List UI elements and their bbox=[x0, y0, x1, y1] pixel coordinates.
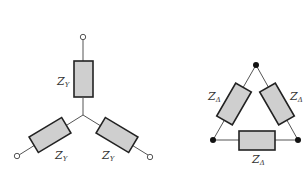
delta-left-label: ZΔ bbox=[207, 90, 221, 104]
star-bl-terminal bbox=[14, 153, 19, 158]
star-br-terminal bbox=[147, 154, 152, 159]
star-br-label: ZY bbox=[101, 149, 116, 163]
delta-bl-node bbox=[210, 137, 216, 143]
star-top-impedance bbox=[74, 61, 93, 97]
delta-top-node bbox=[253, 62, 259, 68]
star-top-label: ZY bbox=[56, 75, 71, 89]
delta-left-impedance bbox=[217, 83, 252, 125]
star-br-impedance bbox=[96, 117, 138, 152]
star-network: ZY ZY ZY bbox=[14, 34, 152, 163]
delta-bottom-impedance bbox=[239, 131, 275, 150]
impedance-diagram: ZY ZY ZY ZΔ ZΔ ZΔ bbox=[0, 0, 306, 180]
star-top-terminal bbox=[80, 34, 85, 39]
delta-bottom-label: ZΔ bbox=[251, 153, 265, 167]
delta-br-node bbox=[295, 137, 301, 143]
star-bl-impedance bbox=[29, 117, 71, 152]
delta-network: ZΔ ZΔ ZΔ bbox=[207, 62, 303, 167]
star-bl-label: ZY bbox=[54, 149, 69, 163]
delta-right-label: ZΔ bbox=[289, 90, 303, 104]
